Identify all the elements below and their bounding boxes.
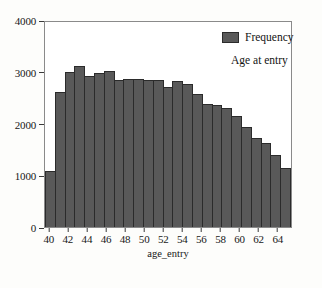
x-axis-tick-label: 44 <box>82 233 93 245</box>
y-axis-tick-label: 4000 <box>15 15 36 27</box>
x-axis-tick: 48 <box>120 228 131 245</box>
y-axis-tick: 0 <box>31 222 44 234</box>
legend-annotation: Age at entry <box>231 54 288 66</box>
legend-label-frequency: Frequency <box>245 31 294 43</box>
x-axis-tick-mark <box>48 228 49 232</box>
x-axis-tick: 64 <box>272 228 283 245</box>
x-axis-tick-label: 48 <box>120 233 131 245</box>
x-axis-tick-mark <box>220 228 221 232</box>
x-axis-tick-mark <box>258 228 259 232</box>
x-axis-tick-label: 46 <box>101 233 112 245</box>
legend: Frequency <box>222 31 294 43</box>
bar-series <box>45 22 291 227</box>
y-axis-tick: 2000 <box>15 119 44 131</box>
x-axis-tick: 52 <box>158 228 169 245</box>
y-axis-tick-label: 3000 <box>15 67 36 79</box>
x-axis-tick: 62 <box>253 228 264 245</box>
x-axis: 40424446485052545658606264 <box>44 228 292 250</box>
x-axis-tick-label: 42 <box>63 233 74 245</box>
x-axis-tick-mark <box>67 228 68 232</box>
y-axis: 01000200030004000 <box>0 21 44 228</box>
x-axis-tick-label: 56 <box>196 233 207 245</box>
x-axis-tick: 60 <box>234 228 245 245</box>
histogram-chart: 01000200030004000 4042444648505254565860… <box>0 0 322 288</box>
x-axis-tick-mark <box>201 228 202 232</box>
x-axis-tick-label: 54 <box>177 233 188 245</box>
x-axis-tick-mark <box>86 228 87 232</box>
x-axis-tick: 40 <box>43 228 54 245</box>
x-axis-tick: 56 <box>196 228 207 245</box>
x-axis-tick-mark <box>144 228 145 232</box>
x-axis-tick-mark <box>125 228 126 232</box>
x-axis-tick-label: 40 <box>43 233 54 245</box>
y-axis-tick: 3000 <box>15 67 44 79</box>
x-axis-tick-mark <box>239 228 240 232</box>
x-axis-tick-mark <box>163 228 164 232</box>
plot-area <box>44 21 292 228</box>
x-axis-tick-label: 64 <box>272 233 283 245</box>
x-axis-title: age_entry <box>44 248 292 259</box>
x-axis-tick-label: 50 <box>139 233 150 245</box>
y-axis-tick-label: 0 <box>31 222 36 234</box>
legend-swatch-frequency <box>222 32 239 43</box>
x-axis-tick: 54 <box>177 228 188 245</box>
x-axis-tick-mark <box>182 228 183 232</box>
y-axis-tick: 4000 <box>15 15 44 27</box>
x-axis-tick: 44 <box>82 228 93 245</box>
x-axis-tick-label: 62 <box>253 233 264 245</box>
bar <box>280 168 291 227</box>
y-axis-tick-label: 2000 <box>15 119 36 131</box>
y-axis-tick-label: 1000 <box>15 170 36 182</box>
x-axis-tick-label: 52 <box>158 233 169 245</box>
y-axis-tick: 1000 <box>15 170 44 182</box>
x-axis-tick-label: 58 <box>215 233 226 245</box>
x-axis-tick: 42 <box>63 228 74 245</box>
x-axis-tick-mark <box>105 228 106 232</box>
x-axis-tick-label: 60 <box>234 233 245 245</box>
x-axis-tick: 46 <box>101 228 112 245</box>
x-axis-tick: 50 <box>139 228 150 245</box>
x-axis-tick-mark <box>277 228 278 232</box>
x-axis-tick: 58 <box>215 228 226 245</box>
